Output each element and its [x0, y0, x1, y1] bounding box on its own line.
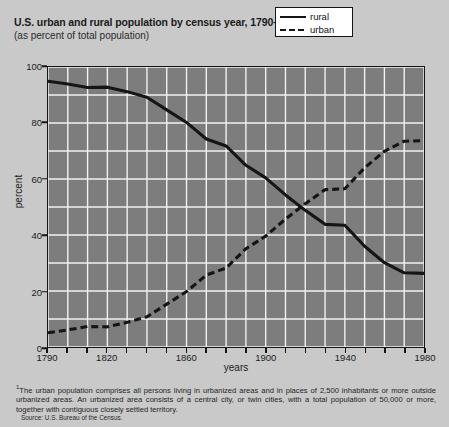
- y-tick-label: 40: [8, 230, 42, 241]
- legend-swatch-dashed-icon: [280, 25, 306, 35]
- footnote-text: The urban population comprises all perso…: [16, 386, 436, 414]
- legend-label-urban: urban: [306, 24, 334, 35]
- page-title: U.S. urban and rural population by censu…: [14, 13, 307, 28]
- x-axis-label: years: [47, 362, 425, 373]
- legend-item-rural: rural: [280, 10, 348, 23]
- legend-item-urban: urban: [280, 23, 348, 36]
- y-tick-label: 20: [8, 286, 42, 297]
- footnote: 1The urban population comprises all pers…: [16, 383, 436, 414]
- legend-swatch-solid-icon: [280, 12, 306, 22]
- legend-label-rural: rural: [306, 11, 329, 22]
- y-tick-label: 80: [8, 117, 42, 128]
- y-axis-ticklabels: 020406080100: [6, 66, 42, 348]
- y-axis-label: percent: [13, 162, 24, 222]
- page-subtitle: (as percent of total population): [14, 30, 149, 41]
- chart-legend: rural urban: [275, 7, 353, 37]
- page-title-text: U.S. urban and rural population by censu…: [14, 16, 302, 28]
- source-line: Source: U.S. Bureau of the Census.: [21, 414, 123, 421]
- plot-area: [47, 66, 425, 348]
- y-tick-label: 100: [8, 61, 42, 72]
- data-series: [48, 67, 424, 347]
- chart-page: U.S. urban and rural population by censu…: [0, 0, 449, 427]
